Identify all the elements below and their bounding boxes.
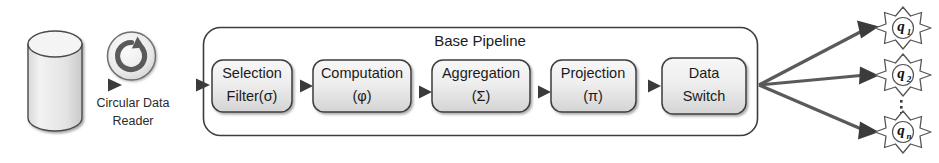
output-node-qn[interactable]: q n	[875, 111, 931, 153]
stage-data-switch-line2: Switch	[683, 88, 726, 104]
pipeline-diagram: Base Pipeline Selection Filter(σ) Comput…	[0, 0, 939, 163]
stage-selection-filter-line1: Selection	[222, 65, 282, 81]
arrow-projection-to-data-switch	[637, 80, 661, 93]
base-pipeline-title: Base Pipeline	[434, 32, 526, 49]
database-cylinder-icon	[28, 31, 82, 131]
arrow-computation-to-aggregation	[412, 86, 432, 99]
circular-data-reader-label-line2: Reader	[113, 114, 154, 128]
arrow-aggregation-to-projection	[531, 86, 551, 99]
stage-projection-line1: Projection	[561, 65, 625, 81]
arrow-selection-to-computation	[293, 80, 313, 93]
stage-computation[interactable]: Computation (φ)	[313, 60, 411, 112]
stage-data-switch-line1: Data	[689, 65, 721, 81]
stage-computation-line2: (φ)	[352, 88, 371, 104]
arrow-pipeline-to-qn	[759, 85, 879, 140]
circular-data-reader	[108, 32, 156, 80]
stage-aggregation[interactable]: Aggregation (Σ)	[432, 60, 530, 112]
stage-selection-filter[interactable]: Selection Filter(σ)	[212, 60, 292, 112]
output-node-q2[interactable]: q 2	[875, 54, 931, 96]
output-node-q2-subscript: 2	[906, 74, 912, 84]
stage-selection-filter-line2: Filter(σ)	[227, 88, 278, 104]
stage-data-switch[interactable]: Data Switch	[662, 58, 746, 114]
output-node-q2-label: q	[897, 65, 905, 81]
output-node-q1-subscript: 1	[907, 27, 912, 37]
output-node-qn-subscript: n	[906, 131, 911, 141]
stage-projection[interactable]: Projection (π)	[551, 60, 636, 112]
output-node-q1[interactable]: q 1	[875, 7, 931, 49]
stage-aggregation-line2: (Σ)	[472, 88, 491, 104]
circular-data-reader-label-line1: Circular Data	[97, 96, 170, 110]
output-node-q1-label: q	[897, 18, 905, 34]
stage-projection-line2: (π)	[583, 88, 603, 104]
output-node-qn-label: q	[897, 122, 905, 138]
diagram-canvas: Base Pipeline Selection Filter(σ) Comput…	[0, 0, 939, 163]
stage-computation-line1: Computation	[321, 65, 403, 81]
stage-aggregation-line1: Aggregation	[442, 65, 520, 81]
